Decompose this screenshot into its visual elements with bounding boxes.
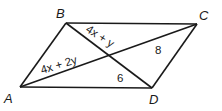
side-AB: [20, 23, 66, 87]
diagram-svg: A B C D 4x + y 4x + 2y 8 6: [0, 0, 222, 111]
side-DA: [20, 87, 152, 88]
segment-label-BE: 4x + y: [84, 23, 117, 50]
parallelogram-diagram: A B C D 4x + y 4x + 2y 8 6: [0, 0, 222, 111]
vertex-label-A: A: [3, 91, 13, 106]
segment-label-CE: 8: [155, 44, 161, 56]
vertex-label-B: B: [56, 6, 65, 21]
side-BC: [66, 23, 197, 24]
vertex-label-C: C: [199, 8, 209, 23]
vertex-label-D: D: [149, 92, 158, 107]
segment-label-DE: 6: [117, 72, 123, 84]
side-CD: [152, 24, 197, 88]
diagonal-BD: [66, 23, 152, 88]
